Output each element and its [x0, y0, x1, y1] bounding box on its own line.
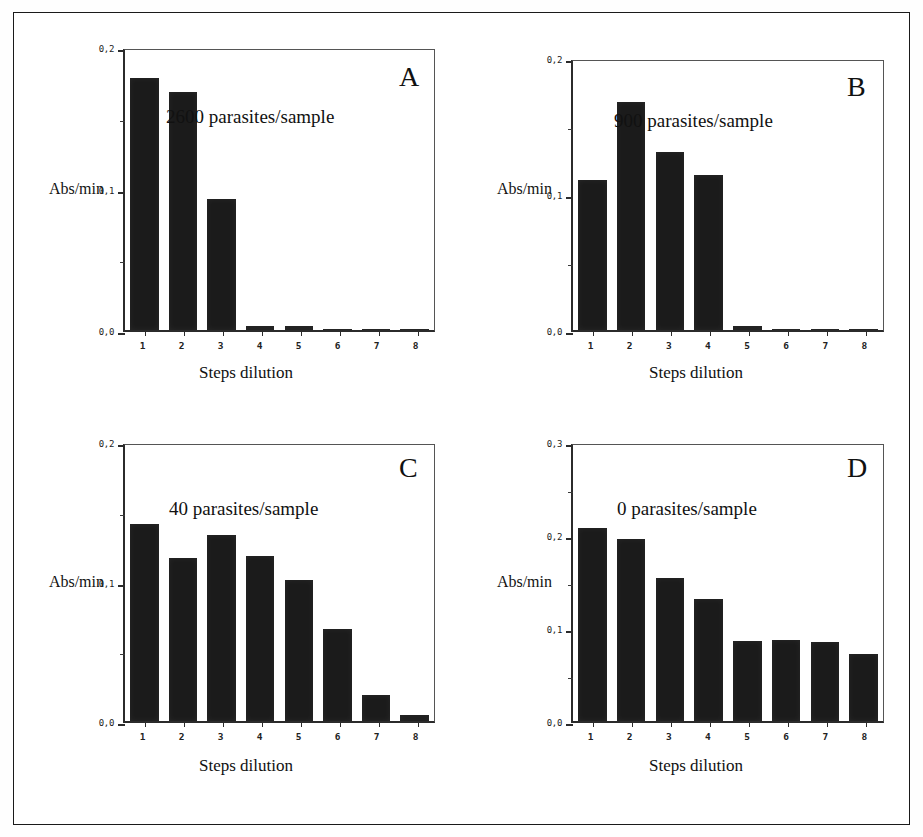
- x-tick-label: 5: [737, 731, 757, 742]
- panel-a-plot-area: [123, 49, 435, 332]
- bar-3: [207, 535, 235, 721]
- y-tick-label: 0,1: [534, 191, 562, 201]
- x-tick: [145, 330, 146, 336]
- x-tick: [184, 330, 185, 336]
- bar-4: [694, 599, 723, 721]
- y-tick-label: 0,1: [86, 186, 114, 196]
- panel-d-annotation: 0 parasites/sample: [617, 498, 757, 520]
- x-tick: [262, 721, 263, 727]
- x-tick-label: 7: [367, 731, 387, 742]
- x-tick-label: 8: [854, 731, 874, 742]
- x-tick: [223, 330, 224, 336]
- bar-6: [772, 329, 801, 331]
- bar-8: [400, 329, 428, 331]
- y-tick-minor: [568, 492, 573, 493]
- bar-1: [130, 78, 158, 330]
- bar-5: [733, 326, 762, 330]
- y-tick-minor: [120, 515, 125, 516]
- x-tick-label: 4: [698, 340, 718, 351]
- x-tick: [866, 330, 867, 336]
- bar-2: [169, 558, 197, 721]
- y-tick-minor: [120, 121, 125, 122]
- x-tick: [749, 721, 750, 727]
- panel-d-bars: [573, 445, 883, 721]
- bar-2: [617, 102, 646, 330]
- y-tick-major: [566, 197, 573, 199]
- panel-a-annotation: 2600 parasites/sample: [166, 106, 334, 128]
- bar-7: [362, 329, 390, 331]
- x-tick-label: 3: [211, 731, 231, 742]
- panel-d: Abs/min D 0 parasites/sample Steps dilut…: [454, 413, 911, 826]
- figure-frame: Abs/min A 2600 parasites/sample Steps di…: [13, 12, 910, 825]
- panel-b-letter: B: [847, 73, 866, 101]
- y-tick-minor: [568, 678, 573, 679]
- y-tick-major: [118, 585, 125, 587]
- y-tick-major: [118, 724, 125, 726]
- bar-8: [849, 329, 878, 331]
- panel-d-letter: D: [847, 454, 867, 482]
- x-tick-label: 4: [250, 340, 270, 351]
- panel-a: Abs/min A 2600 parasites/sample Steps di…: [14, 13, 454, 413]
- y-tick-minor: [120, 262, 125, 263]
- x-tick-label: 5: [737, 340, 757, 351]
- bar-1: [578, 180, 607, 330]
- x-tick-label: 3: [659, 340, 679, 351]
- x-tick: [262, 330, 263, 336]
- y-tick-major: [566, 724, 573, 726]
- x-tick: [671, 330, 672, 336]
- x-tick-label: 7: [367, 340, 387, 351]
- panel-c: Abs/min C 40 parasites/sample Steps dilu…: [14, 413, 454, 826]
- bar-3: [656, 578, 685, 721]
- y-tick-minor: [568, 585, 573, 586]
- x-tick-label: 2: [620, 340, 640, 351]
- panel-b-plot-area: [571, 60, 884, 332]
- bar-5: [285, 326, 313, 330]
- y-tick-label: 0,0: [86, 327, 114, 337]
- x-tick: [418, 721, 419, 727]
- bar-4: [246, 326, 274, 330]
- y-tick-major: [118, 192, 125, 194]
- x-tick-label: 2: [172, 340, 192, 351]
- bar-6: [323, 629, 351, 721]
- panel-b-x-axis-title: Steps dilution: [649, 363, 743, 383]
- y-tick-minor: [568, 129, 573, 130]
- x-tick-label: 7: [815, 340, 835, 351]
- panel-c-letter: C: [399, 454, 418, 482]
- x-tick: [184, 721, 185, 727]
- panel-a-bars: [125, 50, 434, 330]
- bar-3: [656, 152, 685, 330]
- panel-c-bars: [125, 445, 434, 721]
- bar-6: [323, 329, 351, 331]
- x-tick-label: 6: [328, 340, 348, 351]
- x-tick: [827, 721, 828, 727]
- panel-d-y-axis-title: Abs/min: [474, 573, 552, 591]
- y-tick-minor: [568, 265, 573, 266]
- y-tick-label: 0,2: [86, 439, 114, 449]
- x-tick-label: 1: [133, 340, 153, 351]
- x-tick: [632, 721, 633, 727]
- bar-6: [772, 640, 801, 721]
- y-tick-major: [118, 50, 125, 52]
- y-tick-label: 0,0: [534, 327, 562, 337]
- x-tick-label: 5: [289, 340, 309, 351]
- x-tick-label: 8: [854, 340, 874, 351]
- panel-b-annotation: 900 parasites/sample: [614, 110, 773, 132]
- x-tick-label: 8: [406, 731, 426, 742]
- x-tick: [379, 330, 380, 336]
- panel-c-plot-area: [123, 444, 435, 723]
- x-tick-label: 1: [133, 731, 153, 742]
- x-tick: [418, 330, 419, 336]
- x-tick: [301, 330, 302, 336]
- bar-1: [130, 524, 158, 721]
- y-tick-major: [566, 61, 573, 63]
- x-tick-label: 7: [815, 731, 835, 742]
- x-tick: [379, 721, 380, 727]
- x-tick-label: 2: [172, 731, 192, 742]
- x-tick-label: 4: [250, 731, 270, 742]
- bar-5: [285, 580, 313, 721]
- x-tick: [593, 721, 594, 727]
- x-tick-label: 3: [211, 340, 231, 351]
- x-tick: [632, 330, 633, 336]
- x-tick: [710, 721, 711, 727]
- bar-8: [849, 654, 878, 721]
